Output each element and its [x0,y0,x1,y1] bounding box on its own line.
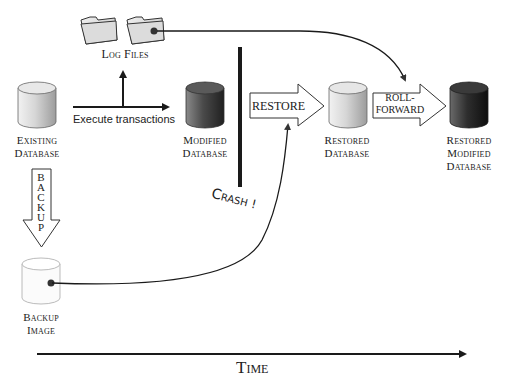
restore-label: RESTORE [252,99,305,114]
restored-database-line1: Restored [314,134,380,147]
restored-database-label: Restored Database [314,134,380,160]
restored-modified-database-line3: Database [436,160,502,173]
execute-transactions-label: Execute transactions [73,113,175,125]
log-to-rollforward-connector [157,31,405,80]
log-files-text: Log Files [90,48,160,61]
modified-database-icon [186,82,224,128]
log-folder-icon-1 [81,17,117,44]
diagram-canvas [0,0,510,382]
crash-bar [238,47,242,187]
modified-database-label: Modified Database [172,134,238,160]
backup-image-icon [22,258,60,304]
backup-image-label: Backup Image [8,311,74,337]
restored-modified-database-line1: Restored [436,134,502,147]
existing-database-line2: Database [4,147,70,160]
backup-letter: P [34,222,48,232]
restored-modified-database-label: Restored Modified Database [436,134,502,173]
backup-image-line1: Backup [8,311,74,324]
restored-database-line2: Database [314,147,380,160]
restored-modified-database-icon [450,82,488,128]
existing-database-label: Existing Database [4,134,70,160]
existing-database-line1: Existing [4,134,70,147]
time-axis-label: Time [236,358,268,378]
modified-database-line1: Modified [172,134,238,147]
modified-database-line2: Database [172,147,238,160]
backup-arrow-label: B A C K U P [34,172,48,232]
rollforward-label: ROLL- FORWARD [374,92,426,116]
restored-database-icon [329,82,367,128]
rollforward-line1: ROLL- [374,92,426,104]
existing-database-icon [18,82,56,128]
rollforward-line2: FORWARD [374,104,426,116]
log-files-label: Log Files [90,48,160,61]
restored-modified-database-line2: Modified [436,147,502,160]
backup-image-line2: Image [8,324,74,337]
